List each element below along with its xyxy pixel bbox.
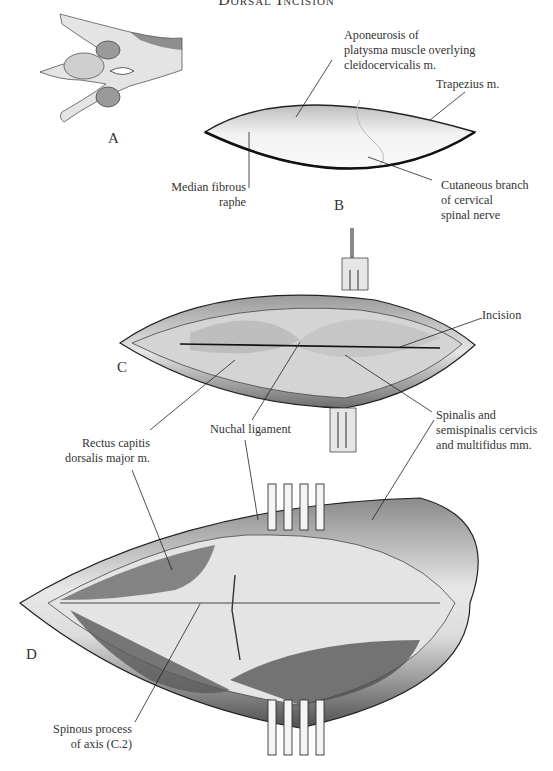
label-cutaneous-branch: Cutaneous branch of cervical spinal nerv… <box>441 178 529 223</box>
illustration-canvas <box>0 0 553 771</box>
panel-label-c: C <box>117 359 127 376</box>
panel-label-a: A <box>108 130 119 147</box>
label-incision: Incision <box>482 308 521 323</box>
label-median-fibrous-raphe: Median fibrous raphe <box>166 180 246 210</box>
panel-d-deep-dissection <box>20 484 478 755</box>
label-nuchal-ligament: Nuchal ligament <box>210 422 291 437</box>
panel-label-b: B <box>334 197 344 214</box>
panel-b-skin-incision <box>205 100 475 169</box>
label-aponeurosis: Aponeurosis of platysma muscle overlying… <box>344 28 475 73</box>
panel-c-exposed-muscle <box>120 228 475 452</box>
label-spinalis: Spinalis and semispinalis cervicis and m… <box>436 408 537 453</box>
panel-label-d: D <box>26 646 37 663</box>
label-trapezius: Trapezius m. <box>436 77 499 92</box>
label-spinous-process: Spinous process of axis (C.2) <box>30 722 132 752</box>
panel-a-animal-illustration <box>40 14 182 122</box>
label-rectus-capitis: Rectus capitis dorsalis major m. <box>20 436 150 466</box>
